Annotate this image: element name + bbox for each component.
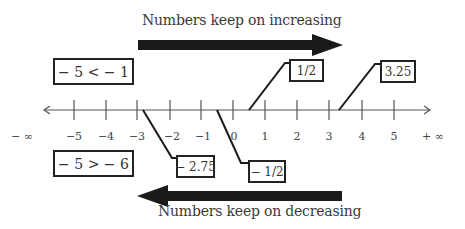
callout-box-neg-half: − 1/2 [248,160,286,183]
tick-label-neg-infinity: − ∞ [11,130,33,143]
tick-label-1: 1 [262,130,269,143]
increasing-caption: Numbers keep on increasing [142,12,342,28]
tick-label-neg-2: −2 [164,130,180,143]
tick-label-5: 5 [391,130,398,143]
tick-label-pos-infinity: + ∞ [422,130,444,143]
tick-label-neg-4: −4 [98,130,114,143]
comparison-box-less-than: − 5 < − 1 [53,58,134,85]
tick-label-neg-3: −3 [129,130,145,143]
tick-label-0: 0 [231,130,238,143]
tick-label-2: 2 [294,130,301,143]
number-line-diagram [0,0,465,229]
increasing-arrow-icon [138,34,343,56]
tick-label-3: 3 [326,130,333,143]
callout-box-half: 1/2 [289,59,324,82]
number-line [44,100,430,120]
leader-line-three-quarter [339,64,380,110]
tick-label-neg-1: −1 [195,130,211,143]
decreasing-caption: Numbers keep on decreasing [158,203,361,219]
callout-box-neg-two-seventyfive: − 2.75 [176,155,215,178]
tick-label-4: 4 [359,130,366,143]
callout-box-three-quarter: 3.25 [380,60,416,83]
leader-line-half [249,63,289,110]
tick-label-neg-5: −5 [66,130,82,143]
comparison-box-greater-than: − 5 > − 6 [53,150,134,177]
